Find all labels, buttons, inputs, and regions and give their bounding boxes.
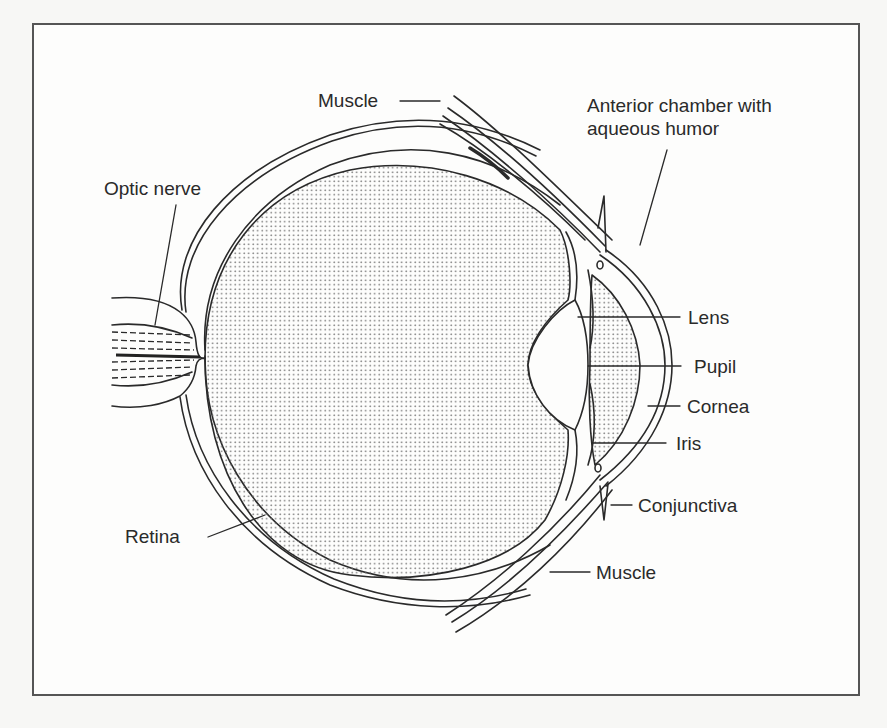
label-lens: Lens (688, 306, 729, 329)
label-anterior-chamber-line1: Anterior chamber with (587, 94, 772, 117)
label-pupil: Pupil (694, 355, 736, 378)
label-muscle-bottom: Muscle (596, 561, 656, 584)
label-anterior-chamber-line2: aqueous humor (587, 117, 719, 140)
label-conjunctiva: Conjunctiva (638, 494, 737, 517)
vitreous-body (205, 166, 570, 578)
label-cornea: Cornea (687, 395, 749, 418)
label-muscle-top: Muscle (318, 89, 378, 112)
label-iris: Iris (676, 432, 701, 455)
anterior-chamber (589, 275, 640, 465)
label-optic-nerve: Optic nerve (104, 177, 201, 200)
label-retina: Retina (125, 525, 180, 548)
optic-nerve-sheath (112, 298, 205, 408)
